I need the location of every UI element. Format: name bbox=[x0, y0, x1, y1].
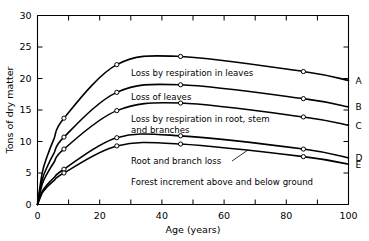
x-axis-title: Age (years) bbox=[166, 224, 221, 235]
y-tick-label-20: 20 bbox=[19, 73, 31, 84]
data-point-B-8.5 bbox=[62, 135, 66, 139]
x-tick-label-80: 80 bbox=[280, 210, 292, 221]
data-point-E-25.5 bbox=[115, 144, 119, 148]
data-point-A-8.5 bbox=[62, 116, 66, 120]
ann-respiration-root-line2: and branches bbox=[131, 125, 190, 135]
data-point-D-85.5 bbox=[301, 147, 305, 151]
data-point-C-25.5 bbox=[115, 109, 119, 113]
series-label-B: B bbox=[356, 102, 362, 112]
x-tick-label-0: 0 bbox=[34, 210, 40, 221]
data-point-E-46 bbox=[178, 142, 182, 146]
ann-loss-of-leaves: Loss of leaves bbox=[131, 92, 192, 102]
data-point-A-25.5 bbox=[115, 63, 119, 67]
y-tick-label-25: 25 bbox=[19, 41, 31, 52]
y-tick-label-15: 15 bbox=[19, 104, 31, 115]
y-tick-label-0: 0 bbox=[25, 199, 31, 210]
data-point-C-8.5 bbox=[62, 147, 66, 151]
x-tick-label-40: 40 bbox=[156, 210, 168, 221]
series-label-A: A bbox=[356, 76, 363, 86]
data-point-A-85.5 bbox=[301, 69, 305, 73]
y-tick-label-5: 5 bbox=[25, 167, 31, 178]
ann-root-branch-loss: Root and branch loss bbox=[131, 156, 222, 166]
series-label-C: C bbox=[356, 121, 362, 131]
ann-respiration-root-line1: Loss by respiration in root, stem bbox=[131, 114, 270, 124]
x-tick-label-20: 20 bbox=[94, 210, 106, 221]
figure-container: 051015202530020406080100 ABCDE Loss by r… bbox=[0, 0, 369, 241]
ann-forest-increment: Forest increment above and below ground bbox=[131, 177, 313, 187]
y-tick-label-10: 10 bbox=[19, 136, 31, 147]
data-point-B-85.5 bbox=[301, 97, 305, 101]
data-point-D-25.5 bbox=[115, 136, 119, 140]
x-tick-label-100: 100 bbox=[339, 210, 357, 221]
data-point-A-46 bbox=[178, 54, 182, 58]
forest-dry-matter-chart: 051015202530020406080100 ABCDE Loss by r… bbox=[0, 0, 369, 241]
data-point-E-8.5 bbox=[62, 171, 66, 175]
ann-respiration-leaves: Loss by respiration in leaves bbox=[131, 68, 254, 78]
y-axis-title: Tons of dry matter bbox=[4, 66, 15, 154]
data-point-E-85.5 bbox=[301, 155, 305, 159]
y-tick-label-30: 30 bbox=[19, 10, 31, 21]
data-point-B-46 bbox=[178, 83, 182, 87]
data-point-B-25.5 bbox=[115, 90, 119, 94]
series-label-E: E bbox=[356, 160, 362, 170]
data-point-C-85.5 bbox=[301, 115, 305, 119]
x-tick-label-60: 60 bbox=[218, 210, 230, 221]
